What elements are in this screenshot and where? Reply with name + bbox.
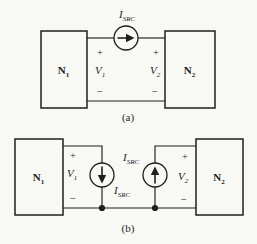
minus-sign-v1-a: − xyxy=(97,86,103,97)
plus-sign-v2-a: + xyxy=(153,47,159,58)
arrow-down-head-icon xyxy=(98,175,106,184)
plus-sign-v1-b: + xyxy=(70,150,76,161)
voltage-label-v1-a: V1 xyxy=(95,64,105,79)
minus-sign-v2-a: − xyxy=(152,86,158,97)
current-source-left-b xyxy=(90,163,114,187)
wire-top-right-b xyxy=(155,146,196,163)
current-source-label-right-b: ISRC xyxy=(122,151,139,166)
minus-sign-v2-b: − xyxy=(181,194,187,205)
arrow-up-head-icon xyxy=(151,167,159,176)
voltage-label-v2-a: V2 xyxy=(150,64,161,79)
caption-a: (a) xyxy=(122,111,135,124)
plus-sign-v2-b: + xyxy=(182,151,188,162)
network-label-n1-a: N1 xyxy=(58,64,70,79)
wire-top-left-b xyxy=(63,146,102,163)
diagram-a: N1 N2 ISRC + V1 − + V2 − (a) xyxy=(41,8,215,124)
current-source-a xyxy=(114,26,138,50)
arrow-right-head-icon xyxy=(126,34,135,42)
voltage-label-v1-b: V1 xyxy=(67,167,77,182)
circuit-figure: N1 N2 ISRC + V1 − + V2 − (a) xyxy=(0,0,257,244)
junction-dot-right xyxy=(152,205,158,211)
diagram-b: N1 N2 ISRC xyxy=(15,139,243,235)
voltage-label-v2-b: V2 xyxy=(178,170,189,185)
junction-dot-left xyxy=(99,205,105,211)
current-source-right-b xyxy=(143,163,167,187)
network-label-n2-b: N2 xyxy=(213,171,225,186)
circuit-svg: N1 N2 ISRC + V1 − + V2 − (a) xyxy=(0,0,257,244)
current-source-label-a: ISRC xyxy=(118,8,135,23)
network-label-n2-a: N2 xyxy=(184,64,196,79)
current-source-label-left-b: ISRC xyxy=(113,184,130,199)
plus-sign-v1-a: + xyxy=(97,47,103,58)
network-label-n1-b: N1 xyxy=(33,171,45,186)
minus-sign-v1-b: − xyxy=(70,193,76,204)
caption-b: (b) xyxy=(122,222,135,235)
